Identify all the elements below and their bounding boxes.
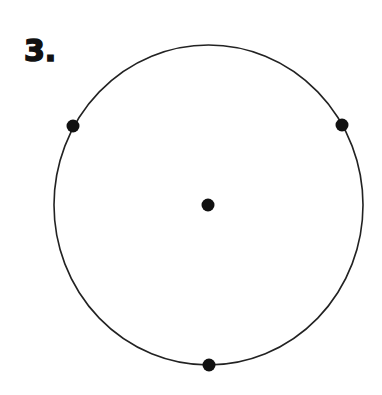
- point-bottom: [203, 359, 216, 372]
- point-right: [336, 119, 349, 132]
- circle-figure: [0, 0, 382, 395]
- points-group: [67, 119, 349, 372]
- point-left: [67, 120, 80, 133]
- point-center: [202, 199, 215, 212]
